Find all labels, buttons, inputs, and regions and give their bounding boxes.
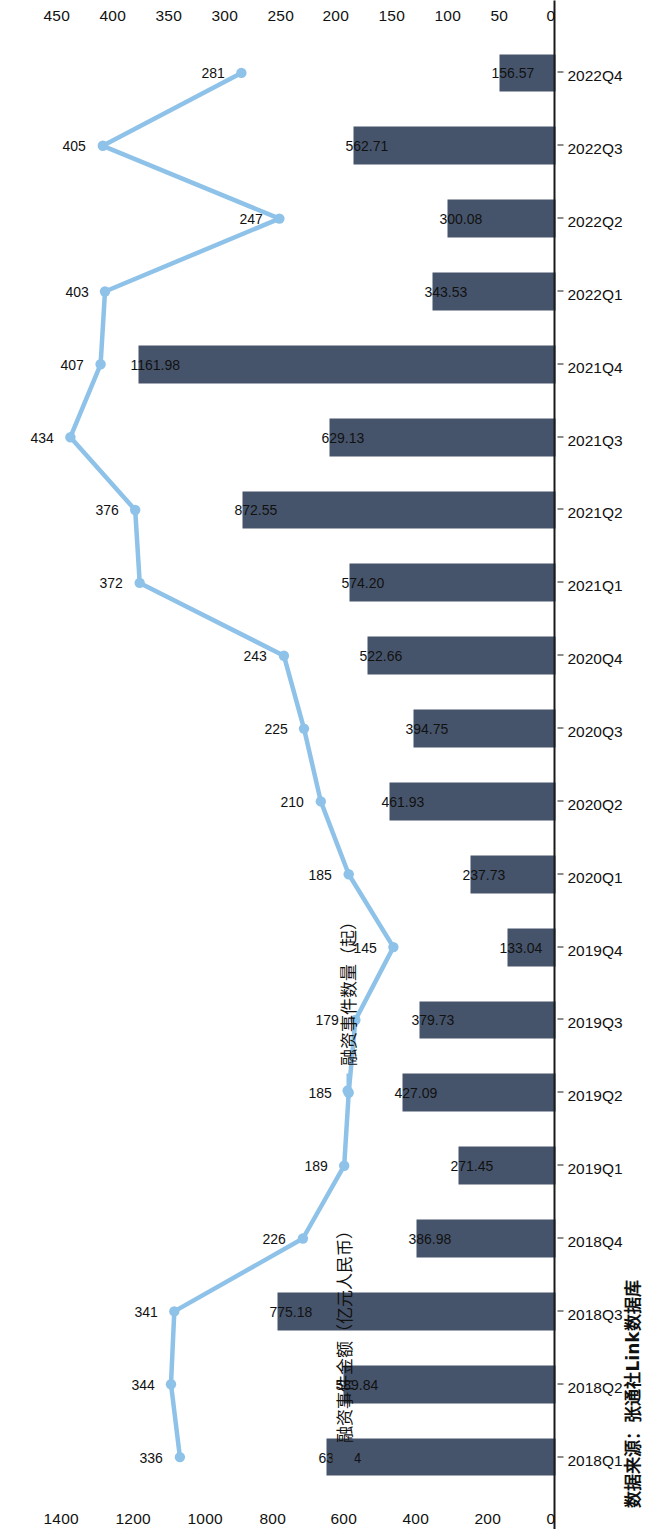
line-point [65, 431, 75, 441]
rotated-chart-canvas: 637.94589.84775.18386.98271.45427.09379.… [0, 0, 663, 1529]
left-axis-tick-label: 200 [474, 1509, 500, 1527]
category-tick [557, 873, 563, 874]
category-tick [557, 436, 563, 437]
category-label: 2021Q4 [567, 358, 622, 376]
left-axis-tick-label: 1400 [43, 1509, 78, 1527]
line-point [165, 1379, 175, 1389]
line-point [169, 1306, 179, 1316]
line-point [297, 1233, 307, 1243]
category-tick [557, 1456, 563, 1457]
category-label: 2021Q3 [567, 431, 622, 449]
right-axis-tick-label: 250 [267, 6, 293, 24]
category-tick [557, 1019, 563, 1020]
category-label: 2018Q3 [567, 1305, 622, 1323]
category-tick [557, 217, 563, 218]
line-point [99, 286, 109, 296]
category-label: 2018Q4 [567, 1232, 622, 1250]
legend-bar-label: 融资事件金额（亿元人民币） [330, 1221, 355, 1442]
line-point [97, 140, 107, 150]
legend-item-count: 融资事件数量（起） [334, 912, 359, 1107]
category-label: 2020Q2 [567, 795, 622, 813]
category-tick [557, 1383, 563, 1384]
category-tick [557, 581, 563, 582]
line-value-label: 403 [65, 283, 88, 299]
category-label: 2022Q4 [567, 66, 622, 84]
category-tick [557, 509, 563, 510]
line-point [236, 67, 246, 77]
category-tick [557, 946, 563, 947]
right-axis-tick-label: 100 [434, 6, 460, 24]
legend-line-label: 融资事件数量（起） [334, 912, 359, 1065]
category-label: 2020Q3 [567, 722, 622, 740]
category-label: 2019Q3 [567, 1014, 622, 1032]
chart-plot-area: 637.94589.84775.18386.98271.45427.09379.… [0, 0, 663, 1529]
right-axis-tick-label: 200 [322, 6, 348, 24]
category-tick [557, 71, 563, 72]
line-value-label: 247 [239, 210, 262, 226]
line-value-label: 189 [304, 1157, 327, 1173]
right-axis-tick-label: 0 [546, 6, 555, 24]
line-point [134, 577, 144, 587]
right-axis-tick-label: 450 [43, 6, 69, 24]
line-value-label: 281 [201, 64, 224, 80]
category-tick [557, 1310, 563, 1311]
category-label: 2021Q1 [567, 576, 622, 594]
left-axis-tick-label: 0 [546, 1509, 555, 1527]
line-value-label: 225 [264, 720, 287, 736]
left-axis-tick-label: 600 [330, 1509, 356, 1527]
legend-line-marker [342, 1085, 352, 1095]
category-label: 2019Q4 [567, 941, 622, 959]
line-value-label: 407 [60, 356, 83, 372]
right-axis-tick-label: 300 [211, 6, 237, 24]
line-point [343, 869, 353, 879]
right-axis-tick-label: 400 [99, 6, 125, 24]
left-axis-tick-label: 400 [402, 1509, 428, 1527]
category-label: 2019Q1 [567, 1159, 622, 1177]
category-tick [557, 144, 563, 145]
line-value-label: 344 [131, 1376, 154, 1392]
category-label: 2022Q3 [567, 139, 622, 157]
category-label: 2022Q2 [567, 212, 622, 230]
left-axis-tick-label: 1000 [187, 1509, 222, 1527]
right-axis-tick-label: 150 [378, 6, 404, 24]
legend-bar-swatch [332, 1450, 354, 1465]
line-value-label: 243 [243, 647, 266, 663]
line-value-label: 372 [99, 574, 122, 590]
left-axis-tick-label: 800 [259, 1509, 285, 1527]
category-tick [557, 654, 563, 655]
category-tick [557, 290, 563, 291]
legend-item-amount: 融资事件金额（亿元人民币） [330, 1221, 355, 1465]
category-label: 2018Q2 [567, 1378, 622, 1396]
legend-line-swatch [340, 1073, 354, 1107]
line-value-label: 210 [280, 793, 303, 809]
source-note: 数据来源：张通社Link数据库 [618, 1280, 643, 1507]
line-value-label: 185 [308, 866, 331, 882]
line-value-label: 405 [62, 137, 85, 153]
left-axis-tick-label: 1200 [115, 1509, 150, 1527]
category-label: 2019Q2 [567, 1086, 622, 1104]
line-value-label: 341 [134, 1303, 157, 1319]
line-value-label: 185 [308, 1084, 331, 1100]
line-point [315, 796, 325, 806]
category-label: 2022Q1 [567, 285, 622, 303]
line-value-label: 434 [30, 429, 53, 445]
line-value-label: 376 [95, 502, 118, 518]
category-tick [557, 800, 563, 801]
category-tick [557, 1237, 563, 1238]
category-tick [557, 1091, 563, 1092]
category-label: 2018Q1 [567, 1451, 622, 1469]
chart-page: 637.94589.84775.18386.98271.45427.09379.… [0, 0, 663, 1529]
category-tick [557, 1164, 563, 1165]
line-point [339, 1160, 349, 1170]
value-axis-baseline [553, 0, 556, 1529]
category-label: 2020Q4 [567, 649, 622, 667]
category-tick [557, 727, 563, 728]
line-value-label: 226 [262, 1230, 285, 1246]
line-point [95, 359, 105, 369]
category-label: 2021Q2 [567, 504, 622, 522]
category-label: 2020Q1 [567, 868, 622, 886]
right-axis-tick-label: 50 [490, 6, 508, 24]
line-point [298, 723, 308, 733]
line-value-label: 336 [139, 1449, 162, 1465]
line-point [174, 1451, 184, 1461]
